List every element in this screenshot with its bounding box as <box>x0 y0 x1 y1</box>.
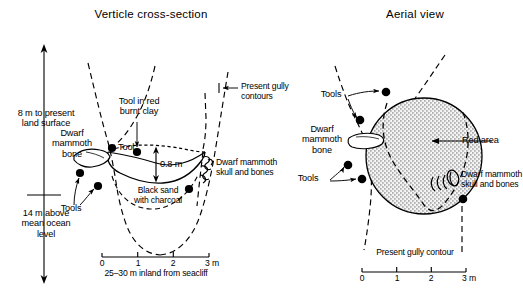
scale-tick-left-1: 1 <box>129 259 147 269</box>
label-aerial-dwarf-mammoth-bone: Dwarf mammoth bone <box>294 124 350 155</box>
label-tool-in-red-burnt-clay: Tool in red burnt clay <box>104 96 174 117</box>
tool-dot-left-upper <box>76 169 84 177</box>
panel-aerial-view <box>330 55 492 272</box>
aerial-tool-dot-bottom-right <box>459 195 468 204</box>
scale-tick-right-3: 3 m <box>456 274 482 284</box>
label-tool-point: Tool <box>118 142 152 152</box>
scale-tick-right-1: 1 <box>388 274 406 284</box>
elevation-axis <box>27 44 61 284</box>
aerial-tool-dot-upper-left <box>356 116 365 125</box>
label-depth-measure: 0.8 m <box>160 159 194 169</box>
scale-tick-left-0: 0 <box>93 259 111 269</box>
scale-tick-left-2: 2 <box>164 259 182 269</box>
panel-title-aerial-view: Aerial view <box>350 8 480 21</box>
panel-vertical-cross-section <box>27 44 238 284</box>
aerial-tool-dot-top <box>382 88 391 97</box>
aerial-tool-dot-lower-a <box>344 161 353 170</box>
aerial-dwarf-mammoth-bone-shape <box>348 133 384 148</box>
label-black-sand-with-charcoal: Black sand with charcoal <box>122 186 194 205</box>
label-present-gully-contours: Present gully contours <box>241 82 305 101</box>
scale-tick-right-2: 2 <box>422 274 440 284</box>
scale-bar-left <box>102 252 209 257</box>
depth-measure-arrow <box>153 147 159 183</box>
figure-canvas: Verticle cross-section Aerial view 8 m t… <box>0 0 523 292</box>
aerial-tool-dot-lower-b <box>358 175 367 184</box>
present-gully-contours-leader <box>219 83 238 93</box>
label-aerial-tools-lower: Tools <box>288 173 328 183</box>
panel-title-vertical-cross-section: Verticle cross-section <box>56 8 246 21</box>
scale-tick-right-0: 0 <box>353 274 371 284</box>
label-red-area: Red area <box>462 135 520 145</box>
label-aerial-tools-upper: Tools <box>312 89 350 99</box>
scale-tick-left-3: 3 m <box>199 259 225 269</box>
aerial-tools-lower-leader <box>330 167 356 181</box>
tool-dot-upper-left <box>108 144 116 152</box>
label-aerial-skull-and-bones: Dwarf mammoth skull and bones <box>461 170 523 189</box>
label-scale-caption-left: 25–30 m inland from seacliff <box>88 269 224 279</box>
tool-dot-left-lower <box>94 182 102 190</box>
label-tools-left: Tools <box>50 203 92 213</box>
scale-bar-right <box>362 267 466 272</box>
tools-left-leader <box>74 178 94 205</box>
label-elevation-top: 8 m to present land surface <box>2 108 90 129</box>
label-present-gully-contour: Present gully contour <box>352 248 478 258</box>
label-dwarf-mammoth-bone: Dwarf mammoth bone <box>44 128 100 159</box>
